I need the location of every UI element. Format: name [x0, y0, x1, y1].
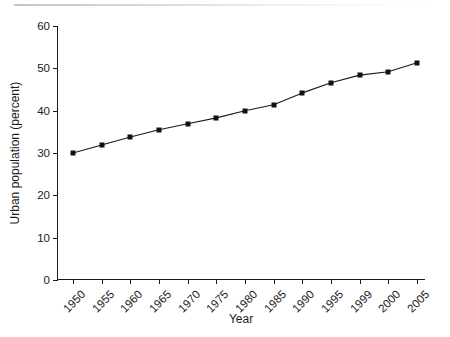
- data-point-marker: [300, 90, 305, 95]
- data-point-marker: [157, 127, 162, 132]
- data-point-marker: [271, 102, 276, 107]
- x-tick-label-text: 1990: [290, 288, 317, 315]
- y-tick-label: 30: [37, 147, 50, 159]
- x-tick-label-text: 1975: [204, 288, 231, 315]
- data-point-marker: [99, 142, 104, 147]
- data-layer: [58, 26, 426, 280]
- data-point-marker: [71, 151, 76, 156]
- x-axis-title: Year: [57, 312, 425, 326]
- data-point-marker: [214, 115, 219, 120]
- x-tick-label-text: 1970: [176, 288, 203, 315]
- data-point-marker: [415, 60, 420, 65]
- x-tick-label-text: 1960: [118, 288, 145, 315]
- data-point-marker: [329, 80, 334, 85]
- y-tick-label: 60: [37, 20, 50, 32]
- data-point-marker: [357, 73, 362, 78]
- x-tick-label-text: 1965: [147, 288, 174, 315]
- y-axis-title: Urban population (percent): [8, 26, 24, 280]
- plot-area: 0102030405060 19501955196019651970197519…: [57, 26, 425, 280]
- data-point-marker: [185, 121, 190, 126]
- y-tick-mark: [53, 280, 58, 281]
- x-tick-label-text: 1995: [319, 288, 346, 315]
- x-tick-label-text: 2000: [376, 288, 403, 315]
- y-tick-label: 40: [37, 105, 50, 117]
- data-point-marker: [386, 69, 391, 74]
- x-tick-label-text: 1999: [348, 288, 375, 315]
- x-tick-label-text: 1955: [90, 288, 117, 315]
- series-line: [58, 26, 426, 280]
- y-tick-label: 50: [37, 62, 50, 74]
- y-tick-label: 20: [37, 189, 50, 201]
- x-tick-label-text: 1980: [233, 288, 260, 315]
- x-tick-label-text: 1950: [61, 288, 88, 315]
- y-tick-label: 0: [44, 274, 50, 286]
- y-tick-label: 10: [37, 232, 50, 244]
- data-point-marker: [243, 108, 248, 113]
- x-tick-label-text: 1985: [262, 288, 289, 315]
- x-tick-label-text: 2005: [405, 288, 432, 315]
- data-point-marker: [128, 134, 133, 139]
- chart-figure: Urban population (percent) 0102030405060…: [0, 0, 450, 337]
